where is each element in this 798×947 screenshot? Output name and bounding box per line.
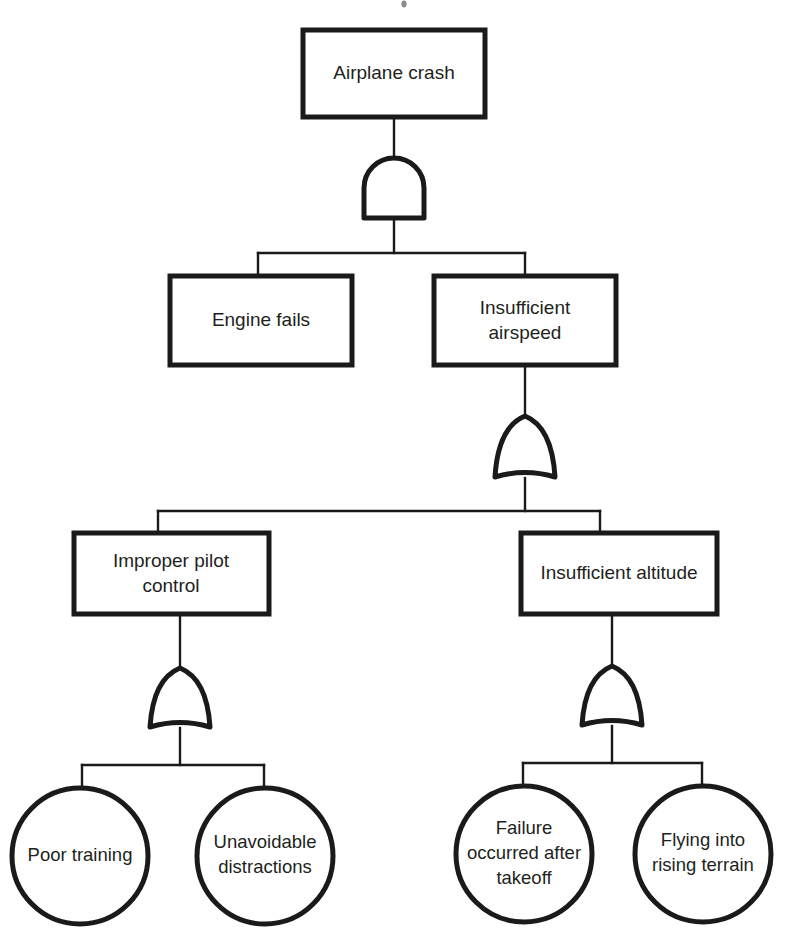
node-flying-into-rising-terrain[interactable]: Flying into rising terrain bbox=[635, 786, 771, 922]
node-box-insufficient-airspeed bbox=[434, 276, 616, 365]
node-insufficient-airspeed[interactable]: Insufficient airspeed bbox=[434, 276, 616, 365]
node-poor-training[interactable]: Poor training bbox=[12, 788, 148, 924]
node-label-unavoidable-distractions-line1: Unavoidable bbox=[214, 831, 317, 852]
node-label-failure-after-takeoff-line1: Failure bbox=[496, 817, 553, 838]
node-label-insufficient-airspeed-line1: Insufficient bbox=[480, 297, 571, 318]
node-failure-occurred-after-takeoff[interactable]: Failure occurred after takeoff bbox=[456, 786, 592, 922]
node-label-failure-after-takeoff-line3: takeoff bbox=[496, 867, 552, 888]
fault-tree-canvas: Airplane crash Engine fails Insufficient… bbox=[0, 0, 798, 947]
node-label-unavoidable-distractions-line2: distractions bbox=[218, 856, 312, 877]
node-label-engine-fails: Engine fails bbox=[212, 309, 310, 330]
node-engine-fails[interactable]: Engine fails bbox=[170, 276, 352, 365]
node-label-airplane-crash: Airplane crash bbox=[333, 62, 454, 83]
or-gate-improper-pilot-control bbox=[150, 668, 210, 727]
scan-artifact-speck bbox=[401, 1, 406, 8]
node-label-improper-pilot-control-line2: control bbox=[142, 575, 199, 596]
or-gate-insufficient-altitude bbox=[582, 666, 642, 725]
or-gate-insufficient-airspeed bbox=[495, 416, 555, 477]
node-unavoidable-distractions[interactable]: Unavoidable distractions bbox=[197, 788, 333, 924]
node-airplane-crash[interactable]: Airplane crash bbox=[303, 30, 485, 117]
and-gate-airplane-crash bbox=[364, 158, 424, 218]
node-label-failure-after-takeoff-line2: occurred after bbox=[467, 842, 581, 863]
fault-tree-diagram: Airplane crash Engine fails Insufficient… bbox=[0, 0, 798, 947]
node-insufficient-altitude[interactable]: Insufficient altitude bbox=[521, 533, 717, 614]
node-box-improper-pilot-control bbox=[74, 533, 269, 614]
node-label-improper-pilot-control-line1: Improper pilot bbox=[113, 550, 230, 571]
node-label-flying-into-rising-terrain-line1: Flying into bbox=[661, 829, 745, 850]
node-label-insufficient-altitude: Insufficient altitude bbox=[540, 562, 697, 583]
node-label-flying-into-rising-terrain-line2: rising terrain bbox=[652, 854, 754, 875]
node-label-poor-training: Poor training bbox=[28, 844, 133, 865]
node-label-insufficient-airspeed-line2: airspeed bbox=[489, 322, 562, 343]
node-improper-pilot-control[interactable]: Improper pilot control bbox=[74, 533, 269, 614]
